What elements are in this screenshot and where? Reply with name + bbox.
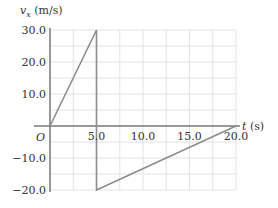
x-axis-label: t (s): [242, 120, 264, 133]
y-tick-label: 10.0: [22, 88, 47, 101]
x-tick-label: 15.0: [177, 130, 202, 143]
origin-label: O: [36, 131, 45, 144]
x-tick-label: 10.0: [131, 130, 156, 143]
y-tick-label: −10.0: [12, 152, 46, 165]
y-tick-label: 30.0: [22, 24, 47, 37]
y-tick-label: −20.0: [12, 184, 46, 197]
y-tick-label: 20.0: [22, 56, 47, 69]
velocity-time-chart: 5.010.015.020.030.020.010.0−10.0−20.0 vx…: [0, 0, 278, 208]
grid: [50, 30, 236, 190]
x-tick-label: 5.0: [88, 130, 106, 143]
y-axis-label: vx (m/s): [20, 4, 63, 19]
